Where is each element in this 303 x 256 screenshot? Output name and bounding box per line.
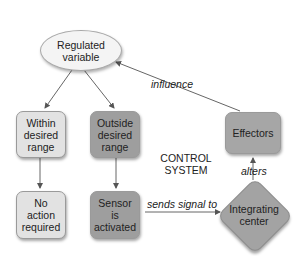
node-within-range-line3: range (24, 141, 58, 153)
node-integrating-center-line1: Integrating (229, 203, 279, 215)
control-system-label: CONTROL SYSTEM (156, 152, 216, 176)
node-outside-range-line2: desired (97, 129, 133, 141)
node-regulated-variable: Regulated variable (40, 30, 122, 71)
edge-label-alters: alters (241, 165, 267, 177)
node-outside-range: Outside desired range (90, 111, 140, 158)
control-system-line2: SYSTEM (156, 164, 216, 176)
node-integrating-center-line2: center (229, 215, 279, 227)
node-no-action-line1: No (22, 197, 61, 209)
node-regulated-variable-line2: variable (57, 51, 105, 63)
node-no-action: No action required (16, 191, 66, 239)
node-sensor-line3: activated (94, 221, 136, 233)
node-effectors-label: Effectors (232, 127, 273, 139)
control-system-diagram: Regulated variable Within desired range … (0, 0, 303, 256)
control-system-line1: CONTROL (156, 152, 216, 164)
node-sensor: Sensor is activated (90, 191, 140, 239)
edge-label-influence: influence (151, 78, 193, 90)
node-within-range-line2: desired (24, 129, 58, 141)
node-regulated-variable-line1: Regulated (57, 39, 105, 51)
node-outside-range-line3: range (97, 141, 133, 153)
node-integrating-center: Integrating center (217, 178, 291, 252)
arrow-regulated-to-within (45, 70, 72, 108)
node-within-range: Within desired range (16, 111, 66, 158)
node-no-action-line2: action (22, 209, 61, 221)
node-sensor-line2: is (94, 209, 136, 221)
node-no-action-line3: required (22, 221, 61, 233)
edge-label-sends-signal-to: sends signal to (147, 198, 217, 210)
node-effectors: Effectors (225, 112, 281, 154)
node-outside-range-line1: Outside (97, 117, 133, 129)
node-within-range-line1: Within (24, 117, 58, 129)
node-sensor-line1: Sensor (94, 197, 136, 209)
arrow-regulated-to-outside (84, 70, 114, 108)
